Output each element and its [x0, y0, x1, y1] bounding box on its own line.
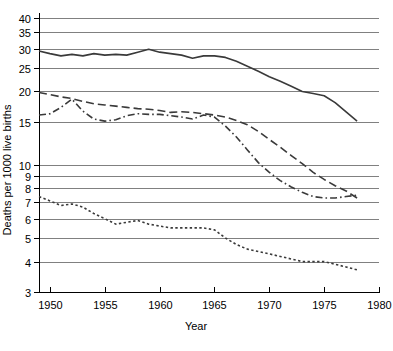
y-tick-label-3: 3	[25, 287, 31, 299]
y-axis-title: Deaths per 1000 live births	[1, 104, 13, 235]
x-tick-label-1980: 1980	[367, 299, 391, 311]
x-tick-label-1955: 1955	[93, 299, 117, 311]
series-dotted	[39, 197, 357, 270]
x-tick-label-1970: 1970	[257, 299, 281, 311]
x-tick-label-1975: 1975	[312, 299, 336, 311]
tick-marks	[34, 19, 380, 293]
y-axis-tick-labels: 345678910152025303540	[19, 13, 31, 299]
y-tick-label-15: 15	[19, 117, 31, 129]
x-axis-tick-labels: 1950195519601965197019751980	[38, 299, 391, 311]
y-tick-label-30: 30	[19, 44, 31, 56]
y-tick-label-7: 7	[25, 197, 31, 209]
y-tick-label-35: 35	[19, 27, 31, 39]
x-tick-label-1960: 1960	[148, 299, 172, 311]
x-axis-title: Year	[185, 320, 208, 332]
y-tick-label-9: 9	[25, 171, 31, 183]
data-series	[39, 49, 357, 270]
y-tick-label-8: 8	[25, 183, 31, 195]
y-tick-label-4: 4	[25, 257, 31, 269]
series-dashed	[39, 93, 357, 198]
y-tick-label-6: 6	[25, 214, 31, 226]
y-tick-label-40: 40	[19, 13, 31, 25]
series-dash-dot	[39, 99, 357, 198]
y-tick-label-10: 10	[19, 160, 31, 172]
x-tick-label-1965: 1965	[202, 299, 226, 311]
y-tick-label-25: 25	[19, 63, 31, 75]
x-tick-label-1950: 1950	[38, 299, 62, 311]
mortality-line-chart: 345678910152025303540 195019551960196519…	[0, 0, 393, 351]
chart-container: 345678910152025303540 195019551960196519…	[0, 0, 393, 351]
y-tick-label-20: 20	[19, 86, 31, 98]
series-solid	[39, 49, 357, 121]
y-tick-label-5: 5	[25, 233, 31, 245]
